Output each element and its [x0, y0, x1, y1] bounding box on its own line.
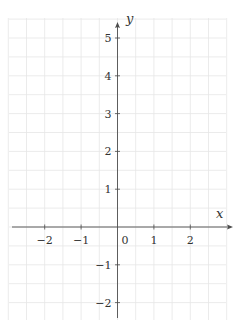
x-tick-label: 0: [122, 234, 129, 247]
y-tick-label: 5: [105, 32, 112, 45]
y-tick-label: 2: [105, 145, 112, 158]
x-tick-label: 2: [187, 234, 194, 247]
y-axis-label: y: [125, 11, 134, 26]
y-tick-label: 4: [105, 70, 112, 83]
x-axis-label: x: [216, 206, 224, 221]
ticks: −2−101254321−1−2: [37, 32, 194, 310]
x-tick-label: −2: [37, 234, 53, 247]
x-tick-label: −1: [73, 234, 89, 247]
coordinate-plane: −2−101254321−1−2 x y: [0, 0, 236, 331]
y-tick-label: −2: [95, 297, 111, 310]
x-tick-label: 1: [150, 234, 157, 247]
y-tick-label: 3: [105, 108, 112, 121]
y-tick-label: 1: [105, 183, 112, 196]
y-tick-label: −1: [95, 259, 111, 272]
